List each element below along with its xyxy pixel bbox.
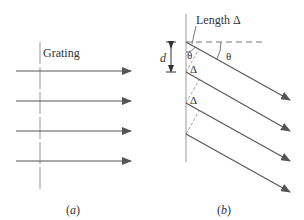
beam-arrow-b3 [186,103,290,161]
angle-arc [217,42,221,59]
diffraction-diagram [0,0,304,220]
length-leader [192,26,196,44]
panel-b [166,14,290,192]
grating-label: Grating [43,47,80,59]
theta-label-inner: θ [187,49,192,61]
panel-a-caption: (a) [66,204,80,216]
path-difference-3 [186,111,199,134]
beam-arrow-b1 [186,42,290,100]
length-delta-label: Length Δ [196,14,241,26]
beam-arrow-b2 [186,72,290,131]
panel-a [16,42,131,190]
delta-label-1: Δ [190,63,197,75]
beam-arrow-b4 [186,134,290,192]
theta-label-outer: θ [226,50,231,62]
spacing-d-label: d [160,52,166,64]
delta-label-2: Δ [190,94,197,106]
panel-b-caption: (b) [217,204,231,216]
